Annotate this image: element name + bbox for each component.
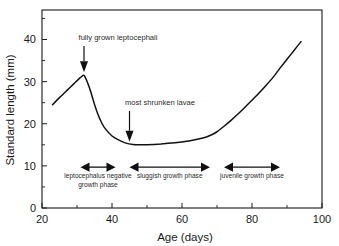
x-tick-label-2: 60 [176,213,188,225]
y-tick-label-3: 30 [24,76,36,88]
x-tick-label-4: 100 [313,213,331,225]
chart-background [0,0,339,246]
y-axis-title: Standard length (mm) [4,54,16,165]
phase-label-1-line-2: growth phase [78,181,118,189]
y-tick-label-2: 20 [24,118,36,130]
phase-label-1-line-1: leptocephalus negative [64,172,132,180]
y-tick-label-1: 10 [24,160,36,172]
phase-label-3-line-1: juvenile growth phase [219,172,284,180]
chart-canvas: 010203040 20406080100 Standard length (m… [0,0,339,246]
x-axis-title: Age (days) [157,231,213,243]
annotation-label-2: most shrunken lavae [125,98,195,107]
y-tick-label-4: 40 [24,33,36,45]
x-tick-label-3: 80 [246,213,258,225]
phase-label-2-line-1: sluggish growth phase [137,172,203,180]
x-tick-label-1: 40 [106,213,118,225]
x-tick-label-0: 20 [36,213,48,225]
annotation-label-1: fully grown leptocephali [79,33,158,42]
growth-curve-chart: 010203040 20406080100 Standard length (m… [0,0,339,246]
